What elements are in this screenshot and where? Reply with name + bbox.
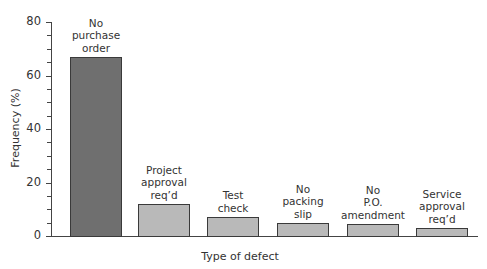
pareto-bar-chart: Frequency (%) Type of defect 020406080 N… xyxy=(0,0,487,269)
bar-category-label: NoP.O.amendment xyxy=(333,184,413,222)
bar xyxy=(277,223,329,237)
y-minor-tick xyxy=(47,35,51,36)
y-minor-tick xyxy=(47,196,51,197)
bar xyxy=(416,228,468,237)
y-minor-tick xyxy=(47,49,51,50)
y-tick-label: 0 xyxy=(17,228,41,242)
y-major-tick xyxy=(46,236,51,237)
y-minor-tick xyxy=(47,89,51,90)
bar xyxy=(70,57,122,237)
bar xyxy=(207,217,259,237)
bar xyxy=(138,204,190,237)
bar-category-label: Projectapprovalreq’d xyxy=(124,164,204,202)
y-major-tick xyxy=(46,129,51,130)
y-minor-tick xyxy=(47,102,51,103)
y-major-tick xyxy=(46,76,51,77)
y-tick-label: 20 xyxy=(17,175,41,189)
y-minor-tick xyxy=(47,62,51,63)
y-tick-label: 80 xyxy=(17,14,41,28)
y-minor-tick xyxy=(47,156,51,157)
x-axis-title: Type of defect xyxy=(201,250,279,263)
y-minor-tick xyxy=(47,209,51,210)
y-minor-tick xyxy=(47,142,51,143)
bar-category-label: Nopurchaseorder xyxy=(56,17,136,55)
bar-category-label: Testcheck xyxy=(193,189,273,214)
bar-category-label: Serviceapprovalreq’d xyxy=(402,188,482,226)
y-tick-label: 60 xyxy=(17,68,41,82)
y-axis-line xyxy=(51,22,52,237)
y-minor-tick xyxy=(47,169,51,170)
y-tick-label: 40 xyxy=(17,121,41,135)
bar xyxy=(347,224,399,237)
bar-category-label: Nopackingslip xyxy=(263,183,343,221)
y-major-tick xyxy=(46,183,51,184)
y-minor-tick xyxy=(47,223,51,224)
y-minor-tick xyxy=(47,116,51,117)
y-major-tick xyxy=(46,22,51,23)
